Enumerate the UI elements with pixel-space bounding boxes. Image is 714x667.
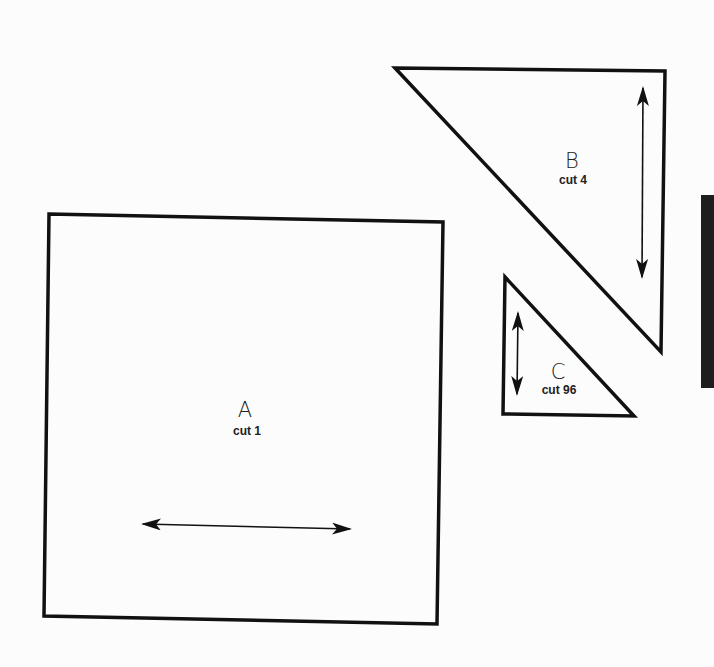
piece-b-shape — [395, 68, 665, 352]
pattern-canvas — [0, 0, 714, 667]
piece-c-cut-label: cut 96 — [542, 384, 577, 396]
grain-arrow-icon — [642, 88, 643, 277]
piece-b-letter: B — [565, 151, 579, 172]
piece-a-letter: A — [238, 400, 252, 421]
grain-arrow-icon — [143, 524, 350, 529]
piece-b-cut-label: cut 4 — [559, 174, 587, 186]
page-edge-tab — [701, 195, 714, 388]
piece-a-cut-label: cut 1 — [233, 425, 261, 437]
piece-b-outline — [395, 68, 665, 352]
grain-arrow-icon — [517, 313, 518, 394]
piece-c-letter: C — [551, 362, 566, 383]
